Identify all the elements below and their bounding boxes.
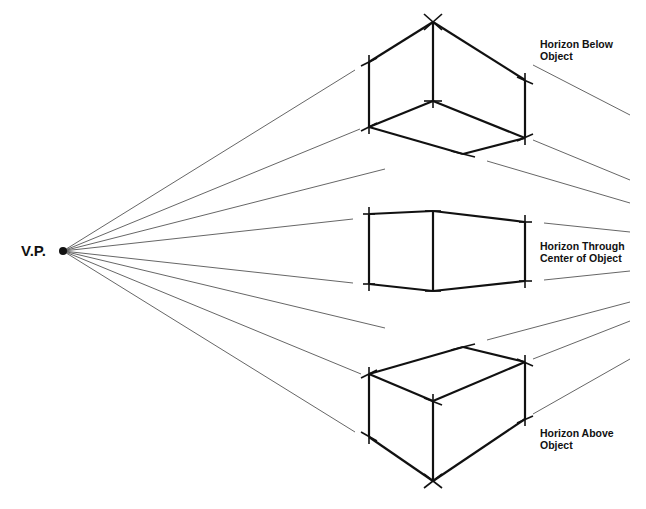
box-edge	[433, 211, 525, 222]
box-edge	[369, 437, 433, 481]
box-edge	[369, 284, 433, 291]
label-horizon-below: Horizon Below Object	[540, 38, 613, 62]
label-horizon-through-line2: Center of Object	[540, 252, 625, 264]
box-edge	[433, 281, 525, 291]
guide-line	[533, 321, 630, 359]
vanishing-point-label: V.P.	[21, 242, 46, 259]
guide-line	[487, 161, 630, 203]
box-edge	[369, 211, 433, 214]
box-edge	[433, 419, 525, 481]
label-horizon-below-line2: Object	[540, 50, 613, 62]
box-edge	[463, 138, 525, 154]
box-edge	[463, 347, 525, 362]
guide-line	[487, 302, 630, 340]
label-horizon-above-line1: Horizon Above	[540, 427, 614, 439]
box-edge	[369, 127, 463, 154]
guide-line	[63, 251, 385, 328]
label-horizon-above: Horizon Above Object	[540, 427, 614, 451]
guide-line	[63, 169, 385, 251]
guide-line	[544, 223, 630, 232]
guide-line	[533, 140, 630, 180]
vanishing-point-dot	[59, 247, 67, 255]
label-horizon-through-center: Horizon Through Center of Object	[540, 240, 625, 264]
box-edge	[433, 101, 525, 138]
box-horizon-below	[361, 14, 533, 157]
box-edge	[369, 347, 463, 374]
box-edge	[433, 22, 525, 80]
guide-line	[533, 359, 630, 414]
box-horizon-through-center	[363, 207, 532, 291]
guide-line	[63, 251, 361, 374]
guide-line	[533, 65, 630, 115]
box-horizon-above	[361, 344, 533, 488]
label-horizon-below-line1: Horizon Below	[540, 38, 613, 50]
box-edge	[369, 22, 433, 62]
label-horizon-through-line1: Horizon Through	[540, 240, 625, 252]
guide-line	[544, 271, 630, 280]
perspective-boxes	[361, 14, 533, 488]
guide-line	[63, 129, 360, 251]
box-edge	[369, 374, 433, 401]
label-horizon-above-line2: Object	[540, 439, 614, 451]
box-edge	[369, 101, 433, 127]
box-edge	[433, 362, 525, 401]
